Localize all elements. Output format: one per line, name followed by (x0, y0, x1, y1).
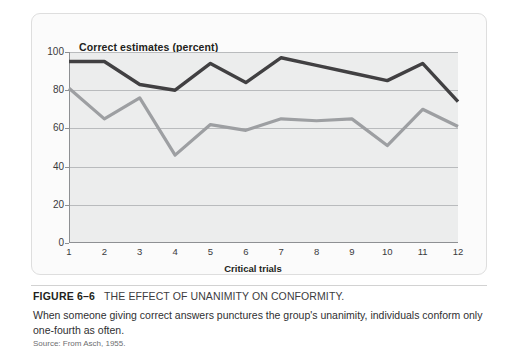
x-tick-label-7: 7 (279, 246, 284, 257)
x-tick-label-5: 5 (208, 246, 213, 257)
figure-source: Source: From Asch, 1955. (33, 339, 126, 348)
x-tick-label-12: 12 (453, 246, 464, 257)
figure-number: FIGURE 6–6 (33, 290, 95, 302)
y-tick-label-40: 40 (53, 161, 64, 172)
figure-page: Correct estimates (percent) 020406080100… (0, 0, 506, 357)
caption-divider (31, 285, 487, 286)
x-tick-label-1: 1 (66, 246, 71, 257)
y-tick-label-100: 100 (47, 46, 64, 57)
y-tick-label-0: 0 (58, 237, 64, 248)
y-tick-label-20: 20 (53, 199, 64, 210)
x-tick-label-6: 6 (243, 246, 248, 257)
x-axis-title: Critical trials (0, 263, 506, 274)
x-tick-label-8: 8 (314, 246, 319, 257)
series-dark-line (69, 58, 458, 102)
figure-caption-body: When someone giving correct answers punc… (33, 308, 485, 337)
y-tick-mark-0 (65, 243, 69, 244)
x-tick-label-11: 11 (418, 246, 428, 257)
plot-area (69, 52, 458, 243)
x-axis-tick-labels: 123456789101112 (69, 245, 458, 261)
y-axis-tick-labels: 020406080100 (38, 52, 64, 243)
series-grey-line (69, 88, 458, 155)
y-tick-label-60: 60 (53, 122, 64, 133)
x-tick-label-2: 2 (102, 246, 107, 257)
figure-title: THE EFFECT OF UNANIMITY ON CONFORMITY. (104, 290, 344, 302)
x-tick-label-4: 4 (172, 246, 177, 257)
x-tick-label-10: 10 (382, 246, 393, 257)
data-series-lines (69, 52, 458, 243)
y-tick-label-80: 80 (53, 84, 64, 95)
x-tick-label-9: 9 (349, 246, 354, 257)
x-tick-label-3: 3 (137, 246, 142, 257)
figure-caption-heading: FIGURE 6–6THE EFFECT OF UNANIMITY ON CON… (33, 290, 344, 302)
